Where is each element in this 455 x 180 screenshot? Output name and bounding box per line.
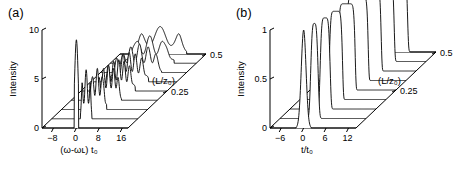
y-tick-label: 0 — [262, 123, 267, 133]
panel-b: (b) 00.51Intensity−60612t/t₀0.250.5(L/z₀… — [228, 0, 455, 180]
y-axis-title: Intensity — [235, 61, 246, 97]
x-tick-label: 12 — [343, 133, 353, 143]
x-tick-label: 6 — [323, 133, 328, 143]
figure-container: (a) 0510Intensity−80816(ω-ωʟ) t₀0.250.5(… — [0, 0, 455, 180]
y-tick-label: 5 — [34, 74, 39, 84]
y-axis-tick — [42, 28, 46, 30]
x-axis-tick — [51, 128, 53, 132]
z-tick-label: 0.25 — [171, 87, 189, 97]
x-tick-label: −6 — [275, 133, 285, 143]
y-axis-tick — [42, 77, 46, 79]
x-tick-label: −8 — [47, 133, 57, 143]
x-tick-label: 0 — [300, 133, 305, 143]
x-axis-tick — [302, 128, 304, 132]
z-axis-title: (L/z₀) — [152, 75, 175, 86]
panel-b-plot: 00.51Intensity−60612t/t₀0.250.5(L/z₀) — [228, 0, 455, 180]
y-tick-label: 0 — [34, 123, 39, 133]
x-axis-tick — [324, 128, 326, 132]
panel-a: (a) 0510Intensity−80816(ω-ωʟ) t₀0.250.5(… — [0, 0, 227, 180]
z-tick-label: 0.5 — [210, 50, 223, 60]
x-axis-title: (ω-ωʟ) t₀ — [60, 144, 97, 155]
y-axis-tick — [270, 28, 274, 30]
x-axis-tick — [74, 128, 76, 132]
y-axis-title: Intensity — [7, 61, 18, 97]
x-axis-tick — [279, 128, 281, 132]
x-axis-title: t/t₀ — [301, 144, 313, 155]
x-axis-tick — [97, 128, 99, 132]
y-axis-tick — [270, 77, 274, 79]
y-tick-label: 10 — [29, 25, 39, 35]
x-axis-tick — [120, 128, 122, 132]
x-tick-label: 8 — [96, 133, 101, 143]
y-tick-label: 0.5 — [254, 74, 267, 84]
panel-a-plot: 0510Intensity−80816(ω-ωʟ) t₀0.250.5(L/z₀… — [0, 0, 227, 180]
x-tick-label: 16 — [116, 133, 126, 143]
x-axis-tick — [347, 128, 349, 132]
x-tick-label: 0 — [73, 133, 78, 143]
z-tick-label: 0.5 — [440, 48, 453, 58]
y-tick-label: 1 — [262, 25, 267, 35]
z-tick-label: 0.25 — [400, 86, 418, 96]
